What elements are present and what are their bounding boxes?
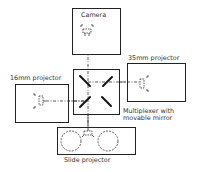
mirror-top-right-icon [103,77,112,86]
camera-node: Camera [73,9,121,55]
slide-projector-label: Slide projector [64,156,111,164]
projector-16mm-node: 16mm projector [10,74,88,123]
projector-35mm-label: 35mm projector [128,54,180,62]
camera-label: Camera [81,11,106,19]
mirror-bottom-right-icon [102,97,111,106]
mirror-top-left-icon [80,76,90,86]
mirror-icons [80,76,112,107]
projector-16mm-label: 16mm projector [10,74,62,82]
projector-16mm-box [16,85,69,123]
multiplexer-label-line2: movable mirror [123,114,173,122]
projector-35mm-node: 35mm projector [120,54,186,102]
multiplexer-diagram: Camera Multiplexer with movable mirror 3… [0,0,197,171]
projector-35mm-box [128,64,186,102]
mirror-bottom-left-icon [80,97,90,107]
